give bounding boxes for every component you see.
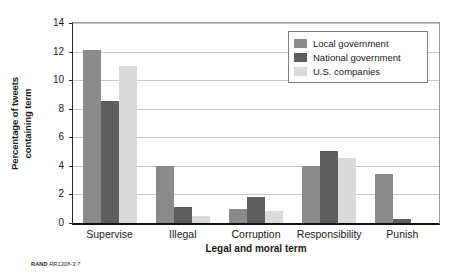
y-axis-tickmark [69, 223, 73, 224]
y-axis-tickmark [69, 23, 73, 24]
y-axis-tickmark [69, 166, 73, 167]
x-axis-tick-label: Responsibility [297, 228, 362, 241]
legend-label-us-companies: U.S. companies [313, 66, 380, 77]
x-axis-tick-label: Illegal [169, 228, 196, 241]
y-axis-tick-label: 6 [58, 132, 64, 142]
y-axis-tick-label: 14 [53, 18, 64, 28]
bar-group [83, 23, 137, 223]
y-axis-tick-label: 4 [58, 161, 64, 171]
y-axis-tickmark [69, 194, 73, 195]
source-figure-id: RR1308-3.7 [49, 261, 80, 267]
bar-chart-figure: Percentage of tweets containing term 024… [0, 0, 458, 273]
y-axis-tickmark [69, 137, 73, 138]
bar [302, 166, 320, 223]
y-axis-tick-label: 0 [58, 218, 64, 228]
bar [393, 219, 411, 223]
bar [247, 197, 265, 223]
bar [192, 216, 210, 223]
chart-legend: Local government National government U.S… [288, 31, 428, 83]
y-axis-tick-label: 10 [53, 75, 64, 85]
bar [320, 151, 338, 223]
legend-entry-national-government: National government [294, 50, 422, 64]
source-note: RAND RR1308-3.7 [31, 261, 80, 268]
bar [83, 50, 101, 223]
legend-entry-us-companies: U.S. companies [294, 64, 422, 78]
x-axis-tick-label: Corruption [231, 228, 280, 241]
bar [375, 174, 393, 223]
y-axis-tick-labels: 02468101214 [40, 22, 68, 225]
x-axis-title: Legal and moral term [72, 243, 440, 255]
x-axis-tick-label: Punish [386, 228, 418, 241]
x-axis-tick-label: Supervise [86, 228, 133, 241]
legend-swatch-national-government [294, 53, 307, 62]
bar [156, 166, 174, 223]
legend-entry-local-government: Local government [294, 36, 422, 50]
bar [119, 66, 137, 223]
legend-label-local-government: Local government [313, 38, 389, 49]
bar [338, 158, 356, 223]
y-axis-tickmark [69, 52, 73, 53]
bar [229, 209, 247, 223]
y-axis-tick-label: 2 [58, 189, 64, 199]
bar-group [156, 23, 210, 223]
source-org: RAND [31, 261, 48, 267]
bar [265, 211, 283, 223]
bar [174, 207, 192, 223]
y-axis-title-line-2: containing term [22, 77, 35, 170]
y-axis-title-line-1: Percentage of tweets [10, 77, 23, 170]
bar [101, 101, 119, 223]
legend-label-national-government: National government [313, 52, 401, 63]
y-axis-tick-label: 12 [53, 47, 64, 57]
y-axis-tick-label: 8 [58, 104, 64, 114]
x-axis-tick-labels: SuperviseIllegalCorruptionResponsibility… [72, 228, 440, 242]
y-axis-tickmark [69, 109, 73, 110]
y-axis-tickmark [69, 80, 73, 81]
legend-swatch-us-companies [294, 67, 307, 76]
legend-swatch-local-government [294, 39, 307, 48]
bar-group [229, 23, 283, 223]
y-axis-title: Percentage of tweets containing term [8, 22, 36, 225]
